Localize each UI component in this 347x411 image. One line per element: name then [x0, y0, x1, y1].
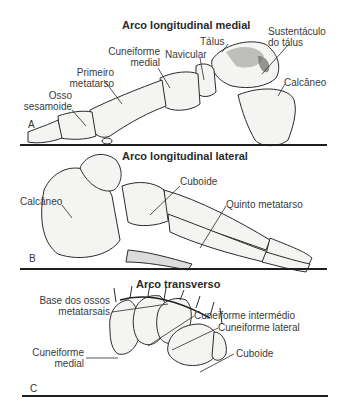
label-sesamoid-line2: sesamoide	[20, 101, 72, 112]
panel-b-title: Arco longitudinal lateral	[122, 150, 248, 162]
panel-c-title: Arco transverso	[136, 278, 220, 290]
label-sustentaculum-line2: do tálus	[268, 37, 303, 48]
panel-a-title: Arco longitudinal medial	[122, 19, 250, 31]
label-calcaneus-b: Calcâneo	[20, 196, 62, 207]
label-fifth-metatarsal: Quinto metatarso	[226, 199, 303, 210]
panel-c-letter: C	[30, 383, 37, 394]
panel-b-letter: B	[29, 253, 36, 264]
label-first-metatarsal-line2: metatarso	[64, 78, 114, 89]
label-metatarsal-bases-line1: Base dos ossos	[30, 295, 110, 306]
label-talus-a: Tálus	[200, 36, 224, 47]
label-cuboid-b: Cuboide	[180, 176, 217, 187]
label-calcaneus-a: Calcâneo	[284, 77, 326, 88]
label-cuneiform-medial-a-line1: Cuneiforme	[104, 46, 160, 57]
panel-b-foot-drawing	[42, 154, 312, 272]
panel-c-foot-drawing	[110, 284, 227, 366]
label-first-metatarsal-line1: Primeiro	[64, 67, 114, 78]
label-cuneiform-lateral: Cuneiforme lateral	[218, 322, 300, 333]
label-navicular: Navicular	[165, 49, 207, 60]
label-cuneiform-medial-c-line1: Cuneiforme	[26, 347, 84, 358]
label-sustentaculum-line1: Sustentáculo	[268, 26, 326, 37]
label-cuboid-c: Cuboide	[236, 348, 273, 359]
label-cuneiform-medial-c-line2: medial	[26, 358, 84, 369]
label-metatarsal-bases-line2: metatarsais	[30, 306, 110, 317]
label-sesamoid-line1: Osso	[20, 90, 72, 101]
label-cuneiform-intermediate: Cuneiforme intermédio	[194, 310, 295, 321]
panel-a-letter: A	[28, 119, 35, 130]
